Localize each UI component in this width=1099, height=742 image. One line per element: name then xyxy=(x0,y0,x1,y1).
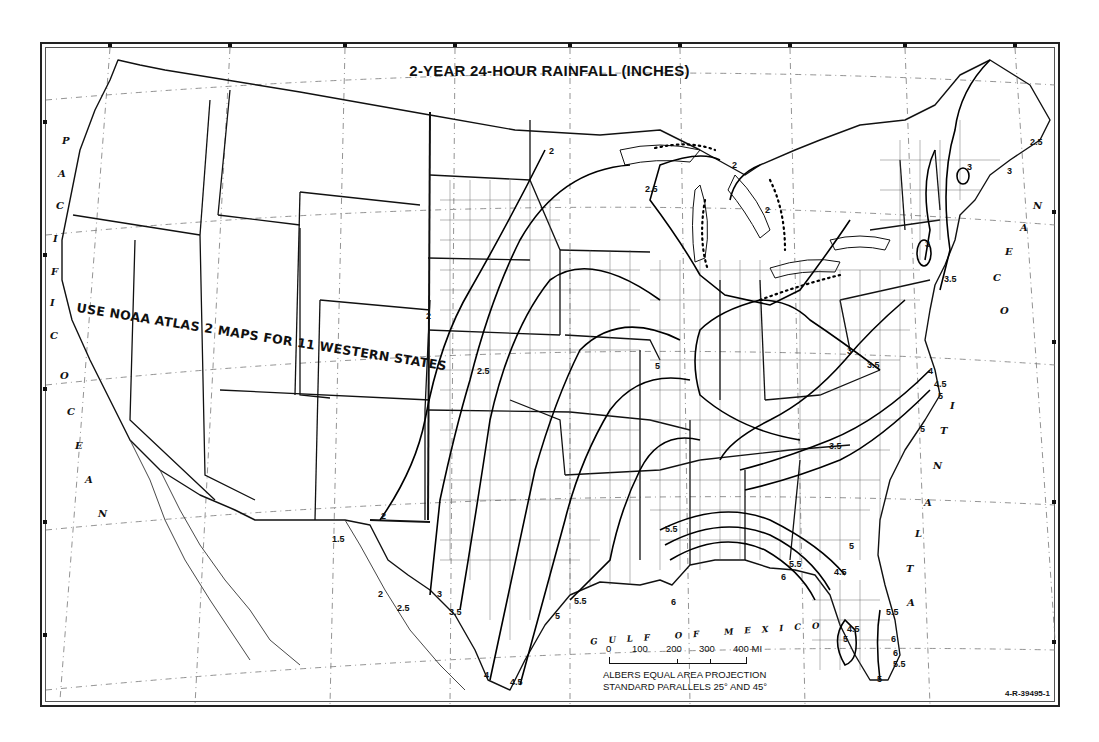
ocean-letter: T xyxy=(906,563,913,574)
ocean-letter: O xyxy=(1000,305,1009,316)
contour-label: 4.5 xyxy=(834,567,847,577)
contour-label: 3.5 xyxy=(829,441,842,451)
contour-label: 4 xyxy=(928,366,933,376)
contour-label: 2.5 xyxy=(1030,137,1043,147)
contour-label: 3 xyxy=(1007,166,1012,176)
ocean-letter: O xyxy=(60,370,69,381)
ocean-letter: N xyxy=(1033,200,1042,211)
ocean-letter: I xyxy=(53,233,58,244)
ocean-letter: E xyxy=(75,440,83,451)
contour-label: 5 xyxy=(555,611,560,621)
border-ticks xyxy=(43,43,1056,644)
us-outline xyxy=(62,60,1050,690)
scale-tick xyxy=(677,659,678,663)
scale-label: 0 xyxy=(606,643,611,654)
figure-code: 4-R-39495-1 xyxy=(1005,689,1050,698)
scale-bar: 0 100 200 300 400 MI xyxy=(606,643,776,664)
dotted-isolines xyxy=(655,144,840,300)
contour-label: 3.5 xyxy=(867,360,880,370)
contour-label: 2 xyxy=(732,160,737,170)
ocean-letter: P xyxy=(62,135,70,146)
scale-labels: 0 100 200 300 400 MI xyxy=(606,643,776,655)
scale-ruler xyxy=(609,657,747,664)
contour-label: 3 xyxy=(967,162,972,172)
scale-label: 400 MI xyxy=(733,643,762,654)
contour-label: 2 xyxy=(381,511,386,521)
ocean-letter: N xyxy=(98,508,107,519)
contour-label: 6 xyxy=(893,648,898,658)
ocean-letter: E xyxy=(1005,246,1013,257)
contour-label: 2.5 xyxy=(397,603,410,613)
contour-label: 5.5 xyxy=(893,659,906,669)
ocean-letter: I xyxy=(950,400,955,411)
projection-line-2: STANDARD PARALLELS 25° AND 45° xyxy=(603,681,767,693)
ocean-letter: C xyxy=(993,272,1001,283)
scale-label: 200 xyxy=(666,643,682,654)
contour-label: 5.5 xyxy=(886,607,899,617)
ocean-letter: C xyxy=(50,330,58,341)
projection-note: ALBERS EQUAL AREA PROJECTION STANDARD PA… xyxy=(603,669,767,693)
contour-label: 5 xyxy=(938,391,943,401)
contour-label: 4.5 xyxy=(847,624,860,634)
contour-label: 5 xyxy=(877,674,882,684)
ocean-letter: A xyxy=(924,497,932,508)
scale-label: 300 xyxy=(699,643,715,654)
ocean-letter: A xyxy=(85,474,93,485)
contour-label: 5 xyxy=(849,541,854,551)
ocean-letter: A xyxy=(1020,222,1028,233)
contour-label: 2 xyxy=(765,205,770,215)
contour-label: 5.5 xyxy=(665,524,678,534)
ocean-letter: L xyxy=(915,528,922,539)
scale-tick xyxy=(710,659,711,663)
contour-label: 3.5 xyxy=(449,607,462,617)
contour-label: 4.5 xyxy=(934,379,947,389)
ocean-letter: T xyxy=(940,425,947,436)
contour-label: 1.5 xyxy=(332,534,345,544)
contour-label: 5 xyxy=(655,361,660,371)
mexico-coast xyxy=(130,440,465,690)
contour-label: 4.5 xyxy=(510,677,523,687)
contour-label: 2.5 xyxy=(477,366,490,376)
contour-label: 3 xyxy=(847,346,852,356)
contour-label: 6 xyxy=(781,572,786,582)
contour-label: 6 xyxy=(671,597,676,607)
contour-label: 5 xyxy=(920,424,925,434)
ocean-letter: I xyxy=(50,297,55,308)
contour-label: 4 xyxy=(484,670,489,680)
contour-label: 5.5 xyxy=(574,596,587,606)
ocean-letter: F xyxy=(51,266,58,277)
contour-label: 3.5 xyxy=(944,274,957,284)
ocean-letter: A xyxy=(907,597,915,608)
contour-label: 3 xyxy=(925,239,930,249)
contour-label: 5 xyxy=(843,634,848,644)
map-title: 2-YEAR 24-HOUR RAINFALL (INCHES) xyxy=(0,62,1099,79)
ocean-letter: N xyxy=(933,460,942,471)
scale-label: 100 xyxy=(632,643,648,654)
contour-label: 5.5 xyxy=(789,559,802,569)
contour-label: 2 xyxy=(549,146,554,156)
contour-label: 2 xyxy=(426,311,431,321)
projection-line-1: ALBERS EQUAL AREA PROJECTION xyxy=(603,669,767,681)
county-boundaries xyxy=(440,120,1000,670)
ocean-letter: C xyxy=(67,406,75,417)
contour-label: 6 xyxy=(891,634,896,644)
contour-label: 2 xyxy=(378,589,383,599)
contour-label: 3 xyxy=(437,589,442,599)
rainfall-map xyxy=(0,0,1099,742)
ocean-letter: A xyxy=(58,168,66,179)
contour-label: 2.5 xyxy=(645,184,658,194)
ocean-letter: C xyxy=(56,200,64,211)
